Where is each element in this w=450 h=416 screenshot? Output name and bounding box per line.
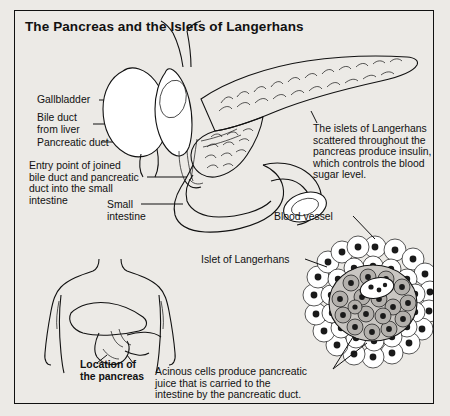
diagram-canvas (15, 11, 434, 404)
label-pancreatic-duct: Pancreatic duct (37, 137, 109, 149)
callout-islets-text: The islets of Langerhans scattered throu… (313, 123, 431, 181)
label-bile-duct-from-liver: Bile duct from liver (37, 112, 80, 135)
islet-micrograph-drawing (303, 236, 434, 368)
label-gallbladder: Gallbladder (37, 94, 90, 106)
label-islet-of-langerhans: Islet of Langerhans (201, 254, 289, 266)
callout-acinous-text: Acinous cells produce pancreatic juice t… (155, 366, 307, 401)
figure-panel: The Pancreas and the Islets of Langerhan… (14, 10, 434, 404)
torso-drawing (45, 259, 175, 373)
label-location-of-pancreas: Location of the pancreas (80, 359, 144, 382)
label-small-intestine: Small intestine (107, 199, 146, 222)
leader-line-islets-callout (311, 111, 317, 123)
label-blood-vessel: Blood vessel (274, 211, 333, 223)
